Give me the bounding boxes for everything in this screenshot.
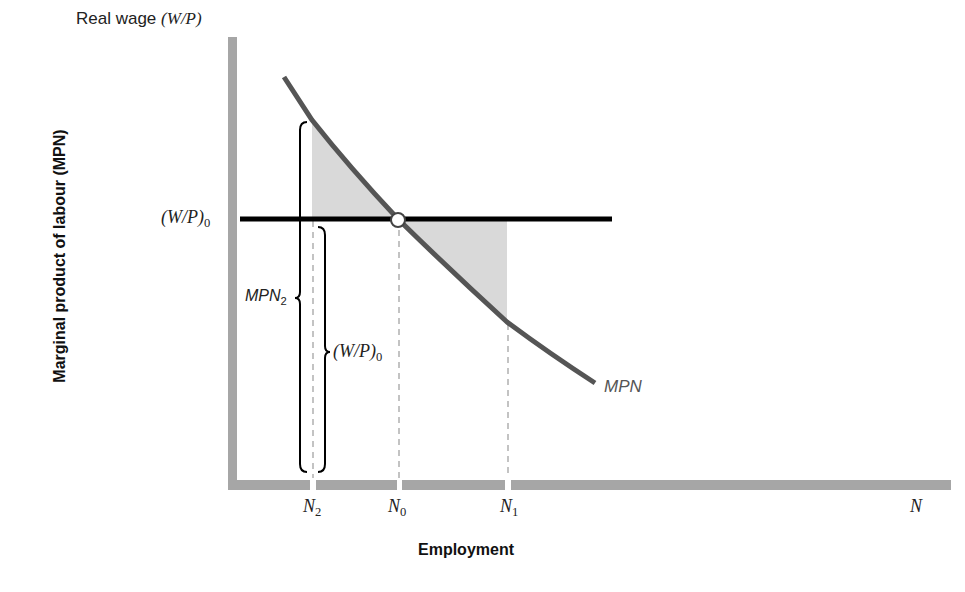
mpn2-sub: 2: [281, 295, 287, 307]
chart-canvas: [0, 0, 965, 592]
tick-n2: N2: [303, 496, 321, 520]
wage-axis-sub: 0: [204, 216, 210, 230]
wage-brace-text: (W/P): [333, 341, 376, 361]
tick-n2-text: N: [303, 496, 315, 516]
wage-brace: [318, 227, 330, 472]
tick-n0-text: N: [388, 496, 400, 516]
tick-n1: N1: [500, 496, 518, 520]
tick-n2-sub: 2: [315, 505, 321, 519]
wage-axis-text: (W/P): [161, 207, 204, 227]
equilibrium-point: [391, 213, 405, 227]
mpn2-brace: [295, 122, 307, 472]
mpn-curve-label: MPN: [604, 377, 642, 397]
y-axis: [228, 37, 237, 490]
real-wage-text: Real wage: [76, 9, 161, 28]
wage-brace-label: (W/P)0: [333, 341, 382, 365]
mpn2-text: MPN: [245, 287, 281, 304]
wage-axis-label: (W/P)0: [161, 207, 210, 231]
tick-n0-sub: 0: [400, 505, 406, 519]
x-axis-title: Employment: [418, 541, 514, 559]
tick-n1-sub: 1: [512, 505, 518, 519]
real-wage-symbol: (W/P): [161, 9, 202, 28]
wage-brace-sub: 0: [376, 350, 382, 364]
y-axis-title: Marginal product of labour (MPN): [51, 129, 69, 382]
x-axis-end-label: N: [910, 496, 922, 517]
real-wage-label: Real wage (W/P): [76, 9, 202, 29]
x-axis: [228, 480, 951, 490]
tick-n1-text: N: [500, 496, 512, 516]
tick-n0: N0: [388, 496, 406, 520]
mpn2-label: MPN2: [245, 287, 287, 307]
